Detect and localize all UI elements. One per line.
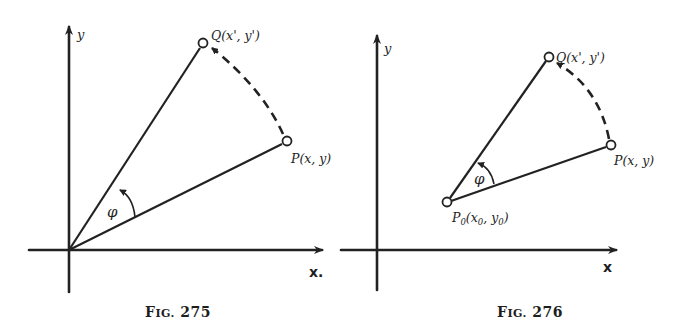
point-p-label: P(x, y) (613, 153, 654, 168)
ray-origin-to-p (69, 144, 282, 250)
ray-origin-to-q (69, 48, 200, 250)
point-q (199, 39, 208, 48)
rotation-arc-dashed (212, 48, 283, 134)
x-axis-label: x. (309, 264, 323, 280)
y-axis-label: y (383, 41, 392, 56)
point-q-label: Q(x', y') (211, 28, 260, 43)
point-p (283, 137, 292, 146)
rotation-arc-dashed (557, 63, 609, 139)
point-q-label: Q(x', y') (556, 50, 605, 65)
figure-caption-275: FIG. 275 (145, 304, 211, 320)
angle-phi-label: φ (107, 203, 118, 221)
point-p0-label: P0(x0, y0) (451, 210, 509, 227)
figure-276: y x Q(x', y') P(x, y) P0(x0, y0) φ FIG. … (341, 36, 654, 320)
x-axis-label: x (603, 259, 612, 275)
point-p (607, 141, 616, 150)
ray-p0-to-q (450, 61, 546, 198)
figure-275: y x. Q(x', y') P(x, y) φ FIG. 275 (29, 27, 331, 320)
point-p0 (443, 198, 452, 207)
angle-arc (120, 190, 135, 217)
y-axis-label: y (76, 27, 85, 42)
point-q (545, 53, 554, 62)
diagram-canvas: y x. Q(x', y') P(x, y) φ FIG. 275 y x Q(… (0, 0, 682, 331)
figure-caption-276: FIG. 276 (497, 304, 563, 320)
angle-phi-label: φ (474, 170, 485, 188)
point-p-label: P(x, y) (290, 151, 331, 166)
